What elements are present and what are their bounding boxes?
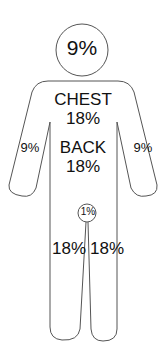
right-arm-percent: 9% [131,141,155,154]
left-arm-percent: 9% [18,141,42,154]
back-label: BACK [52,139,114,156]
groin-percent: 1% [79,207,97,217]
left-leg-percent: 18% [52,240,86,257]
back-percent: 18% [52,158,114,175]
chest-percent: 18% [52,110,114,127]
right-leg-percent: 18% [89,240,125,257]
head-percent: 9% [56,37,108,58]
chest-label: CHEST [52,91,114,108]
